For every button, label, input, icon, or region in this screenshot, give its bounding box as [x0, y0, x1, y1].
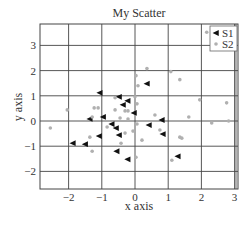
triangle-marker — [158, 117, 164, 123]
circle-marker — [49, 126, 53, 130]
triangle-marker — [124, 156, 130, 162]
circle-marker — [126, 109, 130, 113]
circle-marker — [145, 67, 149, 71]
grid-lines — [40, 24, 238, 189]
triangle-marker — [174, 153, 180, 159]
triangle-marker — [120, 102, 126, 108]
y-tick-label: −1 — [24, 140, 36, 152]
circle-marker — [170, 159, 174, 163]
x-tick-label: −2 — [63, 191, 75, 203]
scatter-chart: My Scatter −2−10123 −2−10123 x axis y ax… — [0, 0, 251, 225]
legend: S1S2 — [210, 26, 237, 51]
circle-marker — [178, 78, 182, 82]
circle-marker — [169, 70, 173, 74]
circle-marker — [113, 96, 117, 100]
chart-title: My Scatter — [113, 6, 166, 20]
x-tick-label: 2 — [199, 191, 205, 203]
circle-marker — [118, 116, 122, 120]
triangle-marker — [116, 94, 122, 100]
triangle-marker — [96, 133, 102, 139]
circle-marker — [119, 141, 123, 145]
circle-marker — [210, 121, 214, 125]
circle-marker — [105, 125, 109, 129]
triangle-marker — [113, 148, 119, 154]
triangle-marker — [70, 140, 76, 146]
y-axis-ticks: −2−10123 — [24, 39, 36, 177]
y-tick-label: −2 — [24, 165, 36, 177]
triangle-marker — [131, 110, 137, 116]
x-tick-label: 3 — [232, 191, 238, 203]
circle-marker — [113, 108, 117, 112]
x-tick-label: −1 — [96, 191, 108, 203]
y-tick-label: 3 — [31, 39, 37, 51]
circle-marker — [96, 106, 100, 110]
y-tick-label: 0 — [31, 115, 37, 127]
circle-marker — [135, 102, 139, 106]
circle-marker — [136, 84, 140, 88]
circle-marker — [92, 106, 96, 110]
triangle-marker — [144, 81, 150, 87]
y-axis-label: y axis — [11, 93, 25, 122]
circle-marker — [135, 122, 139, 126]
circle-marker — [158, 128, 162, 132]
circle-marker — [153, 113, 157, 117]
triangle-marker — [100, 114, 106, 120]
triangle-marker — [96, 90, 102, 96]
triangle-marker — [108, 121, 114, 127]
triangle-marker — [159, 131, 165, 137]
circle-marker — [88, 135, 92, 139]
plot-area — [40, 24, 238, 189]
circle-marker — [123, 131, 127, 135]
circle-marker — [126, 117, 130, 121]
circle-marker — [180, 136, 184, 140]
circle-marker — [134, 74, 138, 78]
circle-marker — [198, 98, 202, 102]
x-tick-label: 1 — [165, 191, 171, 203]
legend-circle-icon — [214, 42, 218, 46]
circle-marker — [225, 101, 229, 105]
circle-marker — [134, 155, 138, 159]
triangle-marker — [146, 122, 152, 128]
circle-marker — [227, 119, 231, 123]
circle-marker — [90, 115, 94, 119]
circle-marker — [90, 149, 94, 153]
data-points — [49, 30, 231, 162]
circle-marker — [187, 115, 191, 119]
circle-marker — [131, 129, 135, 133]
circle-marker — [133, 95, 137, 99]
legend-label: S2 — [222, 38, 234, 50]
circle-marker — [205, 30, 209, 34]
circle-marker — [140, 138, 144, 142]
y-tick-label: 1 — [31, 90, 37, 102]
circle-marker — [65, 108, 69, 112]
y-tick-label: 2 — [31, 65, 37, 77]
triangle-marker — [116, 132, 122, 138]
x-axis-label: x axis — [125, 199, 154, 213]
